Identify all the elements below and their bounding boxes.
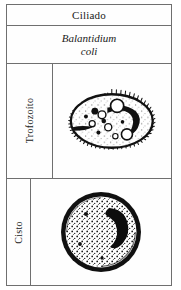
food-vacuole-c (90, 120, 96, 126)
stage-row-cyst: Cisto (7, 179, 171, 285)
contractile-vacuole-posterior (122, 128, 133, 139)
micronucleus (92, 107, 99, 114)
group-label: Ciliado (72, 9, 106, 21)
species-genus: Balantidium (62, 32, 116, 44)
dark-granule-c (121, 120, 125, 124)
cyst-granule-c (100, 256, 103, 259)
balantidium-coli-plate: Ciliado Balantidium coli Trofozoíto (6, 4, 172, 286)
cyst-granule-a (84, 212, 88, 216)
stage-label-cyst: Cisto (7, 179, 31, 285)
balantidium-trophozoite-drawing (53, 66, 171, 176)
contractile-vacuole-anterior (111, 99, 124, 112)
stages-container: Trofozoíto (7, 63, 171, 285)
stage-label-trophozoite: Trofozoíto (7, 63, 53, 178)
cyst-illustration (31, 179, 171, 285)
food-vacuole-a (98, 110, 106, 118)
food-vacuole-b (105, 123, 112, 130)
stage-label-trophozoite-text: Trofozoíto (24, 98, 35, 143)
balantidium-cyst-drawing (46, 180, 156, 284)
dark-granule-d (97, 130, 101, 134)
stage-row-trophozoite: Trofozoíto (7, 63, 171, 179)
trophozoite-illustration (53, 63, 171, 178)
species-epithet: coli (81, 45, 98, 57)
group-label-row: Ciliado (7, 5, 171, 26)
dark-granule-e (134, 113, 137, 116)
cyst-granule-b (78, 242, 82, 246)
plate-header: Ciliado Balantidium coli (7, 5, 171, 64)
dark-granule-a (102, 118, 107, 123)
species-name-row: Balantidium coli (7, 26, 171, 64)
food-vacuole-d (113, 133, 118, 138)
stage-label-cyst-text: Cisto (13, 221, 24, 244)
dark-granule-b (84, 114, 88, 118)
